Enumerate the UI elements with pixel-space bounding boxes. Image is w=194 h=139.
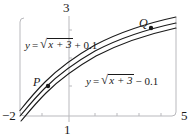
lower-eq-equals: = bbox=[93, 76, 99, 87]
radical-sign-icon: √ bbox=[101, 73, 108, 86]
upper-eq-equals: = bbox=[32, 40, 38, 51]
upper-eq-radicand: x + 3 bbox=[47, 38, 72, 50]
point-label-p: P bbox=[33, 76, 40, 88]
upper-eq-offset: + 0.1 bbox=[75, 40, 98, 51]
lower-eq-radical: √ x + 3 bbox=[101, 74, 133, 87]
point-label-q: Q bbox=[139, 17, 148, 29]
axis-label-x-max: 5 bbox=[181, 109, 188, 122]
plot-canvas bbox=[0, 0, 194, 139]
upper-eq-radical: √ x + 3 bbox=[40, 38, 72, 51]
lower-eq-offset: − 0.1 bbox=[136, 76, 159, 87]
upper-eq-lhs: y bbox=[25, 40, 30, 51]
axis-label-y-min: 1 bbox=[64, 123, 71, 136]
curve-upper bbox=[20, 17, 176, 111]
point-q-marker bbox=[149, 26, 153, 30]
plot-frame-right bbox=[172, 18, 176, 116]
axis-label-x-min: −2 bbox=[2, 109, 16, 122]
point-p-marker bbox=[46, 84, 50, 88]
math-graph-figure: 3 −2 1 5 P Q y = √ x + 3 + 0.1 y = √ x +… bbox=[0, 0, 194, 139]
plot-frame bbox=[20, 18, 172, 116]
curve-label-lower: y = √ x + 3 − 0.1 bbox=[86, 74, 160, 87]
radical-sign-icon: √ bbox=[40, 37, 47, 50]
axis-label-y-max: 3 bbox=[63, 1, 70, 14]
lower-eq-lhs: y bbox=[86, 76, 91, 87]
lower-eq-radicand: x + 3 bbox=[108, 74, 133, 86]
curve-label-upper: y = √ x + 3 + 0.1 bbox=[25, 38, 99, 51]
